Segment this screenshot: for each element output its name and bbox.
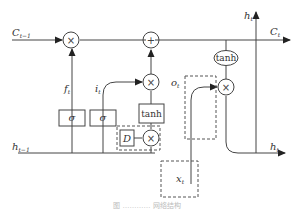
output-gate-line — [191, 87, 217, 184]
tanh-ellipse-label: tanh — [216, 53, 237, 63]
figure-caption: 图 ………… 网络结构 — [113, 201, 180, 209]
multiply-icon: × — [67, 35, 75, 46]
c-out-label: Ct — [270, 26, 281, 38]
multiply-icon: × — [222, 82, 230, 93]
input-gate-label: it — [95, 83, 101, 95]
h-prev-label: ht−1 — [12, 141, 30, 153]
x-input-label: xt — [176, 173, 185, 185]
lstm-diagram: × + × × × σ σ tanh D tanh Ct−1 ht−1 ft i… — [0, 0, 295, 209]
c-prev-label: Ct−1 — [12, 27, 31, 39]
h-top-label: ht — [244, 10, 253, 22]
forget-gate-label: ft — [63, 83, 71, 95]
delay-label: D — [122, 133, 131, 144]
sigma-input-label: σ — [100, 112, 108, 123]
multiply-icon: × — [147, 77, 155, 88]
tanh-box-label: tanh — [141, 109, 162, 119]
add-icon: + — [147, 35, 155, 46]
multiply-icon: × — [147, 133, 155, 144]
h-out-label: ht — [270, 141, 279, 153]
output-dashed-group — [185, 76, 216, 139]
output-gate-label: ot — [171, 77, 180, 89]
sigma-forget-label: σ — [69, 112, 77, 123]
